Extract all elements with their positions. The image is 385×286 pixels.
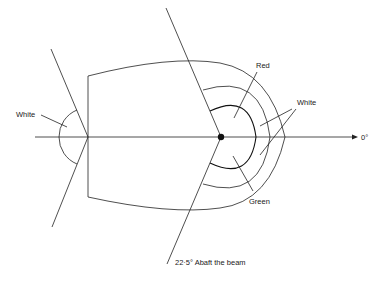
white-forward-label: White [297, 98, 316, 107]
stern-sector-upper-line [51, 49, 88, 137]
abaft-beam-label: 22·5° Abaft the beam [175, 258, 246, 267]
green-label: Green [249, 197, 270, 206]
diagram-canvas: Red Green White White 0° 22·5° Abaft the… [0, 0, 385, 286]
green-leader-line [233, 156, 253, 191]
sector-limit-lower-line [167, 137, 221, 264]
sector-limit-upper-line [166, 8, 221, 137]
light-position-dot [218, 134, 224, 140]
red-label: Red [256, 61, 270, 70]
white-leader-line-1 [260, 109, 292, 126]
arrowhead-icon [352, 135, 358, 140]
white-stern-label: White [16, 110, 35, 119]
stern-sector-lower-line [52, 137, 88, 227]
stern-white-leader-line [41, 115, 67, 127]
zero-degree-label: 0° [361, 133, 368, 142]
navigation-lights-diagram: Red Green White White 0° 22·5° Abaft the… [0, 0, 385, 286]
